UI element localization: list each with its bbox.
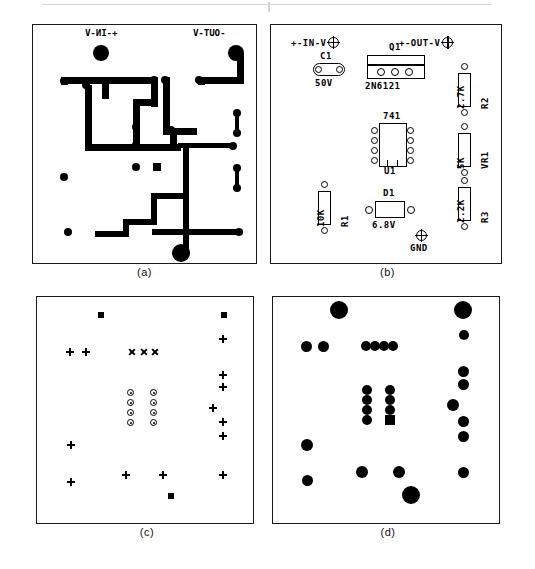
component-ref: VR1 (480, 151, 490, 169)
solder-pad (82, 81, 90, 89)
panel-b-caption: (b) (270, 266, 505, 278)
pad-hole (461, 177, 468, 184)
solder-pad (153, 163, 161, 171)
pad-hole (391, 68, 399, 76)
drill-hole-plus (219, 432, 227, 440)
drill-hole-ring (150, 389, 157, 396)
solder-pad (385, 405, 395, 415)
pad-hole (371, 137, 378, 144)
drill-hole-plus (82, 348, 90, 356)
drill-hole-plus (219, 471, 227, 479)
solder-pad (393, 466, 405, 478)
solder-pad (458, 366, 469, 377)
solder-pad (385, 395, 395, 405)
drill-hole-ring (150, 399, 157, 406)
solder-pad (60, 77, 68, 85)
drill-hole-plus (66, 348, 74, 356)
component-ref: R2 (480, 97, 490, 109)
solder-pad (150, 76, 158, 84)
q1-value: 2N6121 (365, 81, 401, 91)
ground-pad-icon (416, 230, 427, 241)
solder-pad (402, 486, 420, 504)
component-ref: R3 (480, 211, 490, 223)
solder-pad (302, 475, 313, 486)
pad-hole (407, 157, 414, 164)
pad-hole (461, 169, 468, 176)
drill-hole-plus (219, 335, 227, 343)
panel-c-caption: (c) (36, 526, 258, 538)
trace-segment (95, 231, 129, 237)
trace-segment (183, 148, 189, 198)
u1-ref: U1 (384, 166, 396, 176)
solder-pad (233, 109, 241, 117)
solder-pad (362, 415, 372, 425)
drill-hole-ex (128, 348, 136, 356)
drill-hole-ring (150, 409, 157, 416)
solder-pad (195, 76, 203, 84)
drill-hole-ring (150, 419, 157, 426)
solder-pad (132, 123, 140, 131)
solder-pad (233, 164, 241, 172)
panel-d: (d) (272, 296, 504, 544)
component-value: 10K (316, 209, 326, 227)
output-pad-icon (442, 37, 453, 48)
panel-a-input-label: +-IN-V (85, 28, 118, 38)
solder-pad (385, 415, 395, 425)
drill-hole-ring (127, 419, 134, 426)
solder-pad (132, 163, 140, 171)
solder-pad (64, 228, 72, 236)
panel-d-board (272, 296, 500, 524)
panel-b: +-IN-V+-OUT-VGNDC150VQ12N6121741U110KR1D… (270, 24, 505, 279)
panel-grid: +-IN-V -OUT-V GND (a) +-IN-V+-OUT-VGNDC1… (0, 0, 535, 569)
trace-segment (85, 85, 92, 151)
drill-hole-ring (127, 409, 134, 416)
pad-hole (407, 206, 415, 214)
drill-hole-plus (159, 471, 167, 479)
solder-pad (229, 142, 237, 150)
d1-value: 6.8V (372, 220, 396, 230)
solder-pad (458, 467, 469, 478)
pad-hole (315, 66, 322, 73)
pad-hole (407, 147, 414, 154)
transistor-tab (367, 64, 425, 66)
pad-hole (407, 137, 414, 144)
solder-pad (356, 466, 368, 478)
pad-hole (321, 181, 328, 188)
drill-hole-square (168, 493, 174, 499)
solder-pad (318, 341, 329, 352)
pad-hole (365, 206, 373, 214)
solder-pad (301, 341, 312, 352)
d1-ref: D1 (383, 188, 395, 198)
solder-pad (60, 173, 68, 181)
panel-b-board: +-IN-V+-OUT-VGNDC150VQ12N6121741U110KR1D… (270, 24, 502, 264)
pad-hole (461, 223, 468, 230)
pad-hole (377, 68, 385, 76)
pad-hole (461, 123, 468, 130)
solder-pad (458, 431, 469, 442)
drill-hole-plus (219, 418, 227, 426)
panel-a-output-label: -OUT-V (193, 28, 226, 38)
trace-segment (85, 144, 139, 151)
panel-a-board: +-IN-V -OUT-V GND (32, 24, 257, 264)
drill-hole-plus (209, 404, 217, 412)
solder-pad (458, 379, 469, 390)
component-ref: R1 (340, 215, 350, 227)
solder-pad (301, 439, 313, 451)
drill-hole-plus (219, 383, 227, 391)
solder-pad (447, 399, 459, 411)
pad-hole (336, 66, 343, 73)
solder-pad (93, 45, 109, 61)
pad-hole (321, 227, 328, 234)
drill-hole-ring (127, 399, 134, 406)
pad-hole (371, 147, 378, 154)
drill-hole-square (98, 312, 104, 318)
component-value: 2.2K (456, 199, 466, 223)
c1-value: 50V (315, 78, 333, 88)
solder-pad (233, 129, 241, 137)
pad-hole (371, 157, 378, 164)
solder-pad (458, 416, 469, 427)
solder-pad (330, 301, 348, 319)
diode-body (375, 201, 405, 218)
drill-hole-plus (219, 371, 227, 379)
solder-pad (388, 341, 398, 351)
